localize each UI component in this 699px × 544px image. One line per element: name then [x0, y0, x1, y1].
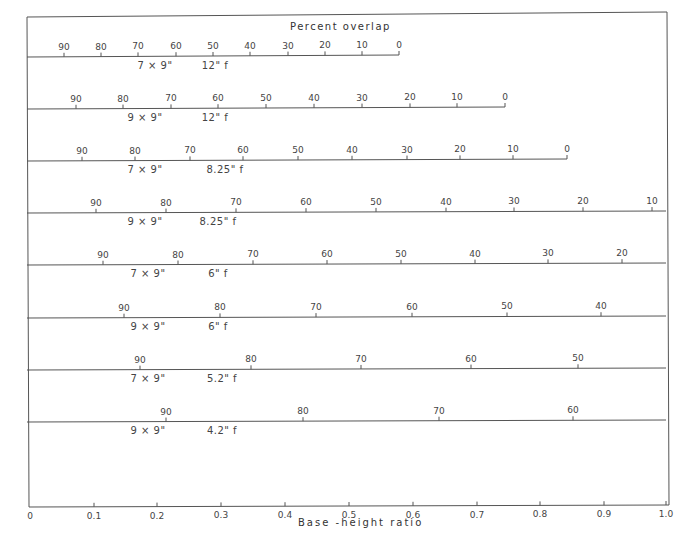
scale-tick-label: 70	[433, 406, 445, 416]
scale-tick-label: 60	[170, 41, 182, 51]
scale-tick-label: 40	[346, 145, 358, 155]
scale-tick-label: 70	[184, 145, 196, 155]
scale-tick-label: 40	[244, 41, 256, 51]
scale-tick-label: 40	[308, 93, 320, 103]
overlap-scale: 9080706050409 × 9"6" f	[27, 301, 666, 332]
scale-tick-label: 20	[454, 144, 466, 154]
scale-tick-label: 70	[132, 41, 144, 51]
x-axis-tick-label: 0.3	[214, 510, 228, 520]
scale-tick-label: 60	[237, 145, 249, 155]
overlap-scale: 90807060504030201007 × 9"8.25" f	[27, 144, 570, 175]
scale-tick-label: 90	[134, 355, 146, 365]
scale-tick-label: 30	[356, 93, 368, 103]
overlap-scales: 90807060504030201007 × 9"12" f9080706050…	[27, 40, 666, 436]
format-label: 9 × 9"	[130, 425, 165, 436]
scale-tick-label: 90	[97, 250, 109, 260]
scale-tick-label: 40	[469, 249, 481, 259]
overlap-scale: 908070609 × 9"4.2" f	[27, 405, 666, 436]
scale-tick-label: 0	[564, 144, 570, 154]
focal-length-label: 12" f	[202, 112, 229, 123]
scale-tick-label: 80	[129, 146, 141, 156]
format-label: 9 × 9"	[127, 112, 162, 123]
focal-length-label: 5.2" f	[207, 373, 237, 384]
focal-length-label: 6" f	[208, 268, 228, 279]
scale-tick-label: 80	[160, 198, 172, 208]
scale-line	[27, 316, 666, 318]
x-axis-tick-label: 0.7	[470, 510, 484, 520]
scale-line	[27, 263, 666, 265]
format-label: 7 × 9"	[130, 373, 165, 384]
overlap-scale: 90807060504030207 × 9"6" f	[27, 248, 666, 279]
scale-tick-label: 70	[165, 93, 177, 103]
scale-tick-label: 40	[595, 301, 607, 311]
format-label: 9 × 9"	[127, 216, 162, 227]
scale-tick-label: 50	[207, 41, 219, 51]
scale-tick-label: 80	[214, 302, 226, 312]
scale-tick-label: 60	[406, 302, 418, 312]
scale-tick-label: 80	[297, 406, 309, 416]
scale-tick-label: 60	[300, 197, 312, 207]
scale-tick-label: 30	[542, 248, 554, 258]
scale-line	[27, 420, 666, 422]
x-axis-tick-label: 1.0	[659, 509, 674, 519]
scale-tick-label: 70	[247, 249, 259, 259]
scale-tick-label: 90	[90, 198, 102, 208]
scale-tick-label: 0	[396, 40, 402, 50]
scale-tick-label: 50	[395, 249, 407, 259]
scale-tick-label: 50	[501, 301, 513, 311]
scale-tick-label: 10	[646, 196, 658, 206]
overlap-scale: 9080706050403020109 × 9"8.25" f	[27, 196, 666, 227]
scale-tick-label: 60	[567, 405, 579, 415]
x-axis-tick-label: 0.8	[533, 509, 548, 519]
scale-tick-label: 30	[508, 196, 520, 206]
scale-tick-label: 40	[440, 197, 452, 207]
format-label: 7 × 9"	[137, 60, 172, 71]
scale-tick-label: 60	[465, 354, 477, 364]
scale-tick-label: 60	[212, 93, 224, 103]
scale-line	[27, 159, 567, 161]
focal-length-label: 6" f	[208, 321, 228, 332]
overlap-scale: 90807060504030201007 × 9"12" f	[27, 40, 402, 71]
scale-line	[27, 368, 666, 370]
format-label: 7 × 9"	[127, 164, 162, 175]
scale-tick-label: 50	[572, 353, 584, 363]
scale-tick-label: 90	[118, 303, 130, 313]
overlap-scale: 90807060504030201009 × 9"12" f	[27, 92, 508, 123]
scale-tick-label: 80	[117, 94, 129, 104]
scale-tick-label: 10	[451, 92, 463, 102]
scale-tick-label: 20	[404, 92, 416, 102]
x-axis-tick-label: 0.2	[150, 511, 164, 521]
x-axis-tick-label: 0	[27, 511, 33, 521]
scale-tick-label: 80	[172, 250, 184, 260]
focal-length-label: 12" f	[202, 60, 229, 71]
focal-length-label: 8.25" f	[206, 164, 243, 175]
format-label: 7 × 9"	[130, 268, 165, 279]
x-axis-tick-label: 0.1	[87, 511, 101, 521]
overlap-scale: 90807060507 × 9"5.2" f	[27, 353, 666, 384]
focal-length-label: 4.2" f	[207, 425, 237, 436]
chart-title: Percent overlap	[290, 21, 391, 32]
scale-tick-label: 50	[260, 93, 272, 103]
scale-tick-label: 20	[577, 196, 589, 206]
scale-tick-label: 50	[292, 145, 304, 155]
scale-tick-label: 70	[355, 354, 367, 364]
x-axis-tick-label: 0.4	[278, 510, 293, 520]
scale-tick-label: 80	[95, 42, 107, 52]
x-axis-label: Base -height ratio	[298, 517, 423, 528]
scale-tick-label: 10	[356, 40, 368, 50]
x-axis-tick-label: 0.9	[597, 509, 612, 519]
chart-frame	[27, 12, 669, 507]
frame-right-border	[667, 12, 669, 505]
scale-tick-label: 20	[319, 40, 331, 50]
scale-tick-label: 90	[58, 42, 70, 52]
scale-tick-label: 50	[370, 197, 382, 207]
scale-tick-label: 90	[70, 94, 82, 104]
scale-tick-label: 30	[401, 145, 413, 155]
scale-tick-label: 90	[160, 407, 172, 417]
frame-left-border	[27, 17, 29, 507]
nomogram-chart: Percent overlap 90807060504030201007 × 9…	[0, 0, 699, 544]
scale-tick-label: 10	[507, 144, 519, 154]
format-label: 9 × 9"	[130, 321, 165, 332]
frame-top-border	[27, 12, 667, 17]
scale-tick-label: 70	[310, 302, 322, 312]
